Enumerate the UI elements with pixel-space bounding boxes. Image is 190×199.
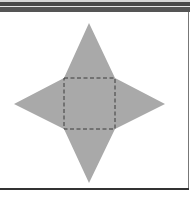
pyramid-net-shape xyxy=(14,23,165,183)
pyramid-net-diagram xyxy=(0,0,190,199)
